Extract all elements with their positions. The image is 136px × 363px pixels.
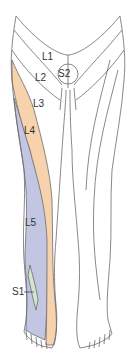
label-s2: S2	[58, 69, 70, 79]
right-toes	[89, 330, 110, 349]
label-s1: S1	[12, 287, 24, 297]
right-leg-outline	[70, 16, 125, 348]
label-l1: L1	[42, 52, 53, 62]
label-l4: L4	[24, 126, 35, 136]
label-l5: L5	[25, 218, 36, 228]
label-l2: L2	[35, 73, 46, 83]
dermatome-diagram	[0, 0, 136, 363]
groin-curve	[16, 16, 120, 55]
label-l3: L3	[33, 99, 44, 109]
